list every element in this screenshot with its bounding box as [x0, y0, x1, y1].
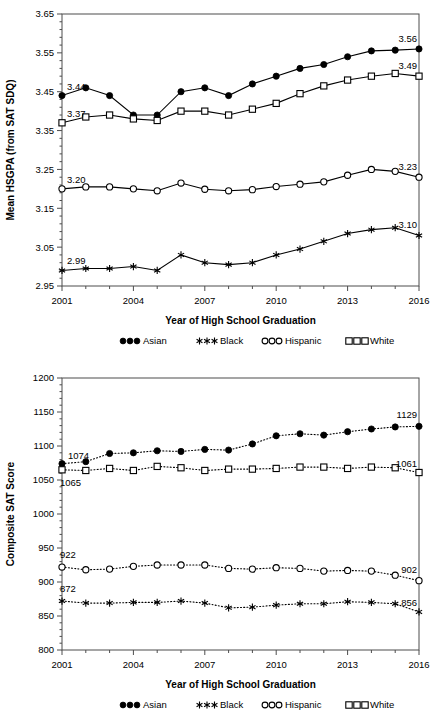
data-point [249, 81, 255, 87]
data-point [107, 184, 113, 190]
x-axis-title: Year of High School Graduation [165, 315, 316, 326]
data-point [178, 108, 184, 114]
legend-label-white: White [370, 335, 394, 346]
data-point [345, 77, 351, 83]
y-tick-label: 900 [38, 576, 54, 587]
data-point [416, 46, 422, 52]
y-tick-label: 3.35 [36, 125, 55, 136]
data-point [202, 562, 208, 568]
data-point [107, 112, 113, 118]
data-point [297, 464, 303, 470]
data-point [130, 467, 136, 473]
x-tick-label: 2016 [408, 295, 429, 306]
data-point [368, 568, 374, 574]
data-point [107, 450, 113, 456]
data-point-label: 922 [60, 549, 76, 560]
data-point [416, 578, 422, 584]
data-point [273, 433, 279, 439]
data-point-label: 3.10 [399, 219, 418, 230]
data-point [130, 563, 136, 569]
x-tick-label: 2004 [123, 295, 144, 306]
chart-background [0, 364, 439, 728]
data-point [321, 464, 327, 470]
data-point-label: 1065 [60, 477, 81, 488]
data-point [249, 106, 255, 112]
data-point-label: 3.23 [399, 161, 418, 172]
data-point [226, 112, 232, 118]
y-tick-label: 3.65 [36, 8, 55, 19]
data-point [154, 448, 160, 454]
data-point [178, 180, 184, 186]
y-tick-label: 2.95 [36, 280, 55, 291]
data-point [416, 423, 422, 429]
data-point [273, 183, 279, 189]
y-axis-title: Composite SAT Score [5, 461, 16, 566]
data-point [321, 432, 327, 438]
legend-label-asian: Asian [143, 699, 167, 710]
data-point [226, 565, 232, 571]
data-point-label: 1061 [396, 458, 417, 469]
data-point [321, 568, 327, 574]
data-point-label: 3.56 [399, 33, 418, 44]
data-point [83, 567, 89, 573]
chart-hsgpa: 2.953.053.153.253.353.453.553.65Mean HSG… [0, 0, 439, 364]
x-tick-label: 2013 [337, 659, 358, 670]
legend-label-black: Black [220, 699, 243, 710]
x-tick-label: 2010 [266, 659, 287, 670]
legend-marker-black [197, 338, 218, 345]
x-tick-label: 2004 [123, 659, 144, 670]
data-point [368, 48, 374, 54]
data-point [202, 108, 208, 114]
legend-marker-hispanic [262, 702, 282, 708]
data-point [226, 447, 232, 453]
y-tick-label: 1000 [33, 508, 54, 519]
legend-marker-white [346, 338, 368, 344]
data-point-label: 3.20 [67, 174, 86, 185]
y-tick-label: 3.25 [36, 164, 55, 175]
data-point [130, 450, 136, 456]
legend-label-black: Black [220, 335, 243, 346]
y-tick-label: 1150 [34, 406, 54, 417]
data-point [178, 89, 184, 95]
data-point [130, 186, 136, 192]
data-point [202, 467, 208, 473]
data-point [297, 181, 303, 187]
data-point [226, 93, 232, 99]
x-tick-label: 2016 [408, 659, 429, 670]
data-point [154, 117, 160, 123]
y-tick-label: 3.15 [36, 203, 55, 214]
data-point [345, 567, 351, 573]
data-point [59, 93, 65, 99]
data-point [392, 168, 398, 174]
y-tick-label: 1050 [33, 474, 54, 485]
figure-page: 2.953.053.153.253.353.453.553.65Mean HSG… [0, 0, 439, 728]
data-point [107, 93, 113, 99]
data-point [368, 166, 374, 172]
data-point [154, 463, 160, 469]
legend-marker-hispanic [262, 338, 282, 344]
data-point [368, 464, 374, 470]
data-point [416, 174, 422, 180]
data-point-label: 2.99 [67, 255, 86, 266]
data-point [59, 461, 65, 467]
chart-sat: 80085090095010001050110011501200Composit… [0, 364, 439, 728]
data-point [392, 47, 398, 53]
data-point [345, 54, 351, 60]
data-point [178, 465, 184, 471]
data-point [392, 424, 398, 430]
data-point [226, 466, 232, 472]
data-point [249, 187, 255, 193]
data-point [59, 564, 65, 570]
legend-label-white: White [370, 699, 394, 710]
y-axis-title: Mean HSGPA (from SAT SDQ) [5, 80, 16, 221]
legend-label-hispanic: Hispanic [285, 335, 322, 346]
x-tick-label: 2001 [51, 659, 72, 670]
data-point [273, 73, 279, 79]
y-tick-label: 950 [38, 542, 54, 553]
x-tick-label: 2010 [266, 295, 287, 306]
data-point [297, 565, 303, 571]
y-tick-label: 800 [38, 644, 54, 655]
data-point [321, 83, 327, 89]
y-tick-label: 1100 [34, 440, 54, 451]
data-point-label: 3.44 [67, 81, 86, 92]
